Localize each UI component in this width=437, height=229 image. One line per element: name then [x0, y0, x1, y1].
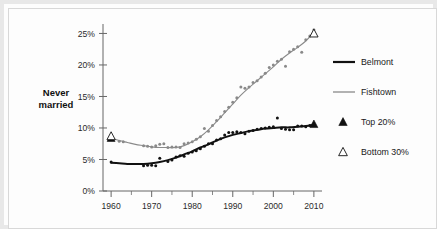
legend-label: Top 20%	[361, 117, 395, 127]
series-layer	[107, 28, 318, 167]
x-tick-label: 1970	[142, 201, 161, 211]
y-tick-label: 15%	[78, 92, 96, 102]
trend-line	[111, 32, 314, 147]
data-point	[288, 128, 291, 131]
x-tick-label: 1980	[183, 201, 202, 211]
chart-stage: Never married 0%5%10%15%20%25% 196019701…	[0, 0, 437, 229]
legend-triangle-filled-swatch	[339, 118, 347, 126]
y-axis-label-line1: Never	[43, 87, 70, 98]
data-point	[223, 133, 226, 136]
data-point	[154, 164, 157, 167]
data-point	[239, 86, 242, 89]
data-point	[231, 131, 234, 134]
x-tick-label: 2010	[304, 201, 323, 211]
data-point	[243, 87, 246, 90]
bottom30-triangle-marker	[107, 132, 115, 140]
chart-legend: BelmontFishtownTop 20%Bottom 30%	[333, 57, 409, 157]
data-point	[158, 143, 161, 146]
data-point	[203, 127, 206, 130]
data-point	[162, 142, 165, 145]
data-point	[284, 65, 287, 68]
legend-label: Belmont	[361, 57, 394, 67]
y-axis-label-line2: married	[39, 99, 74, 110]
x-tick-label: 1960	[102, 201, 121, 211]
x-tick-label: 1990	[223, 201, 242, 211]
data-point	[158, 157, 161, 160]
top20-triangle-marker	[310, 120, 318, 128]
legend-label: Bottom 30%	[361, 147, 409, 157]
series-fishtown	[107, 28, 318, 149]
y-tick-label: 5%	[83, 155, 96, 165]
never-married-line-chart: Never married 0%5%10%15%20%25% 196019701…	[0, 0, 437, 229]
data-point	[292, 128, 295, 131]
y-tick-label: 20%	[78, 60, 96, 70]
legend-item-bottom-30[interactable]: Bottom 30%	[339, 147, 409, 157]
legend-item-fishtown[interactable]: Fishtown	[333, 87, 396, 97]
y-tick-label: 25%	[78, 29, 96, 39]
legend-triangle-open-swatch	[339, 147, 348, 155]
data-point	[227, 131, 230, 134]
data-point	[300, 51, 303, 54]
x-axis-ticks: 196019701980199020002010	[102, 191, 324, 211]
data-point	[268, 66, 271, 69]
legend-item-top-20[interactable]: Top 20%	[339, 117, 396, 127]
legend-label: Fishtown	[361, 87, 396, 97]
legend-item-belmont[interactable]: Belmont	[333, 57, 394, 67]
bottom30-triangle-marker	[310, 29, 318, 37]
y-tick-label: 10%	[78, 123, 96, 133]
y-tick-label: 0%	[83, 186, 96, 196]
x-tick-label: 2000	[264, 201, 283, 211]
data-point	[276, 116, 279, 119]
